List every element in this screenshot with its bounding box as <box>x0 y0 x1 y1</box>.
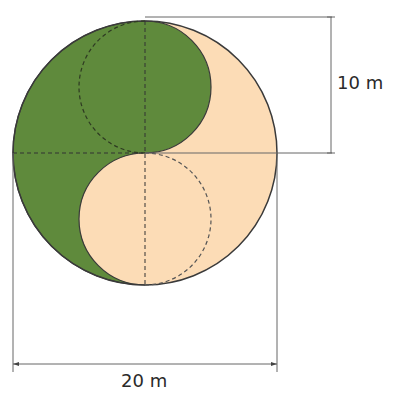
yin-yang-diagram <box>0 0 397 393</box>
width-dimension-label: 20 m <box>121 370 167 391</box>
width-dim-arrow-right <box>271 362 277 366</box>
height-dimension-label: 10 m <box>337 72 383 93</box>
width-dim-arrow-left <box>13 362 19 366</box>
